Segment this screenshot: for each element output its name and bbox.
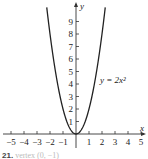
x-tick-label: −3 bbox=[32, 137, 42, 147]
x-tick-label: 2 bbox=[100, 137, 105, 147]
y-tick-label: 9 bbox=[69, 17, 74, 27]
x-tick-label: −4 bbox=[19, 137, 29, 147]
figure-caption: 21. vertex (0, −1) bbox=[2, 151, 59, 159]
x-tick-label: 1 bbox=[87, 137, 92, 147]
curve-equation-label: y = 2x² bbox=[99, 75, 126, 85]
caption-text: vertex (0, −1) bbox=[15, 151, 59, 159]
y-tick-label: 8 bbox=[69, 29, 74, 39]
y-axis-arrow-icon bbox=[74, 2, 78, 7]
x-tick-label: −5 bbox=[6, 137, 16, 147]
y-tick-label: 2 bbox=[69, 104, 74, 114]
x-tick-label: −1 bbox=[58, 137, 68, 147]
y-tick-label: 4 bbox=[69, 79, 74, 89]
y-axis-ticks: 123456789 bbox=[69, 17, 80, 127]
y-tick-label: 6 bbox=[69, 54, 74, 64]
x-tick-label: 3 bbox=[113, 137, 118, 147]
x-tick-label: −2 bbox=[45, 137, 55, 147]
caption-number: 21. bbox=[2, 151, 13, 159]
x-tick-label: 4 bbox=[126, 137, 131, 147]
y-tick-label: 3 bbox=[69, 92, 74, 102]
y-tick-label: 7 bbox=[69, 42, 74, 52]
y-axis-label: y bbox=[79, 1, 84, 11]
parabola-chart: −5−4−3−2−112345 123456789 y x y = 2x² bbox=[0, 0, 148, 159]
y-tick-label: 1 bbox=[69, 117, 74, 127]
y-tick-label: 5 bbox=[69, 67, 74, 77]
x-axis-label: x bbox=[139, 123, 144, 133]
x-tick-label: 5 bbox=[139, 137, 144, 147]
